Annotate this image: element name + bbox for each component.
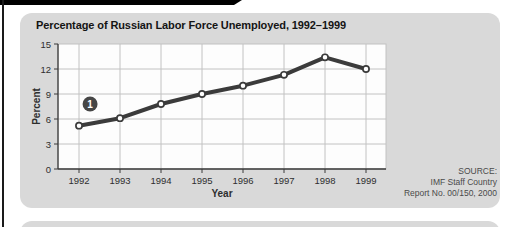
x-tick-label-1996: 1996 — [232, 175, 253, 186]
source-line: SOURCE: — [404, 166, 497, 177]
chart-title: Percentage of Russian Labor Force Unempl… — [36, 19, 346, 31]
left-page-edge-line — [2, 0, 4, 227]
data-point-1995 — [199, 91, 205, 97]
data-point-1996 — [240, 83, 246, 89]
data-point-1993 — [117, 115, 123, 121]
textbook-page: Percentage of Russian Labor Force Unempl… — [0, 0, 516, 227]
y-tick-label-0: 0 — [46, 164, 51, 175]
data-point-1998 — [322, 54, 328, 60]
next-section-card — [20, 221, 500, 227]
x-tick-label-1999: 1999 — [355, 175, 376, 186]
x-tick-label-1994: 1994 — [150, 175, 171, 186]
data-point-1999 — [363, 66, 369, 72]
y-tick-label-9: 9 — [46, 89, 51, 100]
data-point-1997 — [281, 72, 287, 78]
source-line: IMF Staff Country — [404, 177, 497, 188]
data-point-1992 — [76, 123, 82, 129]
x-tick-label-1993: 1993 — [109, 175, 130, 186]
callout-1-number: 1 — [87, 99, 93, 110]
top-black-bar — [0, 0, 234, 5]
x-tick-label-1997: 1997 — [273, 175, 294, 186]
source-note: SOURCE: IMF Staff Country Report No. 00/… — [404, 166, 497, 199]
y-tick-label-6: 6 — [46, 114, 51, 125]
x-tick-label-1998: 1998 — [314, 175, 335, 186]
line-chart: 1992199319941995199619971998199903691215… — [32, 38, 394, 188]
x-axis-title: Year — [192, 188, 252, 199]
y-axis-title: Percent — [31, 72, 44, 142]
y-tick-label-15: 15 — [40, 39, 51, 50]
source-line: Report No. 00/150, 2000 — [404, 188, 497, 199]
data-point-1994 — [158, 101, 164, 107]
x-tick-label-1995: 1995 — [191, 175, 212, 186]
x-tick-label-1992: 1992 — [68, 175, 89, 186]
y-tick-label-3: 3 — [46, 139, 51, 150]
